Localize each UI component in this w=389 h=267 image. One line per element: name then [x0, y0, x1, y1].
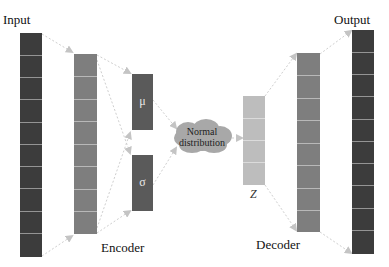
sigma-symbol: σ	[132, 175, 153, 190]
output-label: Output	[334, 12, 370, 28]
decoder-hidden-layer	[297, 53, 320, 232]
input-label: Input	[3, 12, 30, 28]
input-layer	[20, 33, 42, 257]
mu-symbol: μ	[132, 94, 153, 109]
encoder-hidden-layer	[74, 54, 97, 234]
decoder-label: Decoder	[256, 237, 300, 253]
normal-distribution-label: Normal distribution	[170, 126, 234, 148]
encoder-label: Encoder	[101, 240, 144, 256]
z-label: Z	[250, 187, 257, 202]
latent-z-layer	[243, 96, 265, 185]
output-layer	[352, 30, 374, 254]
